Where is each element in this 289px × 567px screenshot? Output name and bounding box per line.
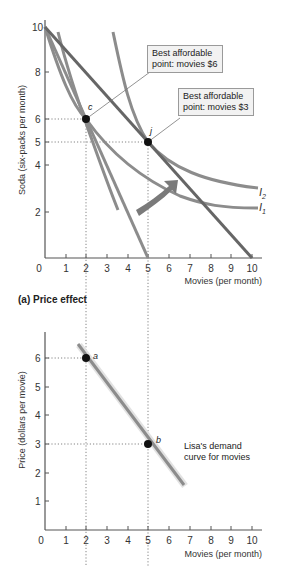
top-x-tick-labels: 0 1 2 3 4 5 6 7 8 9 10 xyxy=(36,263,258,274)
point-c xyxy=(82,115,90,123)
svg-text:1: 1 xyxy=(63,263,69,274)
callout-best-affordable-6: Best affordable point: movies $6 xyxy=(147,45,223,73)
top-y-tick-6: 6 xyxy=(35,114,41,125)
svg-text:9: 9 xyxy=(228,263,234,274)
bottom-y-tick-6: 6 xyxy=(35,353,41,364)
demand-label-line1: Lisa's demand xyxy=(184,441,250,452)
svg-text:0: 0 xyxy=(38,535,44,546)
svg-text:4: 4 xyxy=(125,535,131,546)
top-y-tick-10: 10 xyxy=(32,22,44,33)
svg-text:8: 8 xyxy=(208,263,214,274)
svg-text:2: 2 xyxy=(83,535,89,546)
svg-text:0: 0 xyxy=(36,263,42,274)
svg-text:3: 3 xyxy=(104,263,110,274)
callout-3-line1: Best affordable xyxy=(183,91,249,102)
svg-text:2: 2 xyxy=(83,263,89,274)
callout-3-leader xyxy=(148,118,180,142)
bottom-y-tick-1: 1 xyxy=(35,496,41,507)
bottom-y-tick-4: 4 xyxy=(35,410,41,421)
point-c-label: c xyxy=(88,102,93,112)
bottom-y-tick-2: 2 xyxy=(35,468,41,479)
point-a xyxy=(82,354,90,362)
svg-text:7: 7 xyxy=(187,263,193,274)
svg-text:3: 3 xyxy=(104,535,110,546)
demand-label-line2: curve for movies xyxy=(184,452,250,463)
top-y-tick-2: 2 xyxy=(35,207,41,218)
callout-best-affordable-3: Best affordable point: movies $3 xyxy=(178,88,254,116)
svg-text:6: 6 xyxy=(166,263,172,274)
callout-3-line2: point: movies $3 xyxy=(183,102,249,113)
svg-text:10: 10 xyxy=(246,263,258,274)
point-j xyxy=(144,138,152,146)
price-effect-figure: 10 8 6 5 4 2 0 1 2 3 4 5 6 7 8 9 10 Movi… xyxy=(0,0,289,567)
svg-text:6: 6 xyxy=(166,535,172,546)
svg-text:7: 7 xyxy=(187,535,193,546)
top-y-tick-4: 4 xyxy=(35,160,41,171)
bottom-x-axis-title: Movies (per month) xyxy=(184,549,262,559)
panel-title: (a) Price effect xyxy=(18,294,87,305)
svg-text:8: 8 xyxy=(208,535,214,546)
svg-text:5: 5 xyxy=(145,535,151,546)
point-a-label: a xyxy=(93,351,98,361)
top-guides xyxy=(45,119,148,567)
svg-text:4: 4 xyxy=(125,263,131,274)
point-j-label: j xyxy=(149,126,153,136)
callout-6-line1: Best affordable xyxy=(152,48,218,59)
top-y-tick-5: 5 xyxy=(35,137,41,148)
demand-curve-label: Lisa's demand curve for movies xyxy=(184,441,250,463)
svg-text:10: 10 xyxy=(246,535,258,546)
svg-text:9: 9 xyxy=(228,535,234,546)
bottom-x-tick-labels: 0 1 2 3 4 5 6 7 8 9 10 xyxy=(38,535,258,546)
bottom-y-tick-5: 5 xyxy=(35,382,41,393)
point-b xyxy=(144,440,152,448)
top-y-axis-title: Soda (six-packs per month) xyxy=(17,85,27,195)
top-x-axis-title: Movies (per month) xyxy=(184,276,262,286)
callout-6-line2: point: movies $6 xyxy=(152,59,218,70)
demand-curve xyxy=(78,344,184,485)
budget-line-movies-6 xyxy=(45,27,148,258)
top-y-tick-8: 8 xyxy=(35,67,41,78)
i1-label: I1 xyxy=(259,201,266,215)
callout-6-leader xyxy=(86,72,150,119)
point-b-label: b xyxy=(156,435,161,445)
bottom-y-axis-title: Price (dollars per movie) xyxy=(17,371,27,469)
i2-label: I2 xyxy=(259,186,266,200)
bottom-y-tick-3: 3 xyxy=(35,439,41,450)
svg-text:1: 1 xyxy=(63,535,69,546)
